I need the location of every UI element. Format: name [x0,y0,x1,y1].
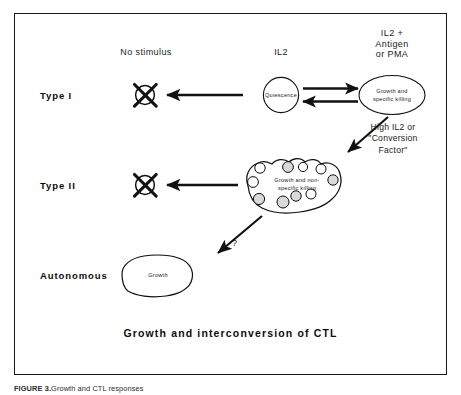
row-label-type-ii: Type II [40,180,76,191]
annotation-unknown-step: ? [232,238,237,249]
figure-caption-label: FIGURE 3. [14,384,51,393]
row-label-type-i: Type I [40,90,72,101]
shape-label-growth-nonspecific-killing: Growth and non-specific killing [262,177,332,192]
column-header-il2: IL2 [251,47,311,58]
row-label-autonomous: Autonomous [40,270,108,281]
figure-title: Growth and interconversion of CTL [14,327,447,339]
figure-page: No stimulus IL2 IL2 +Antigenor PMA Type … [0,0,461,395]
figure-caption: FIGURE 3.Growth and CTL responses [14,384,447,395]
column-header-no-stimulus: No stimulus [100,47,192,58]
column-header-il2-antigen-pma: IL2 +Antigenor PMA [352,28,432,60]
shape-label-autonomous-growth: Growth [132,272,184,280]
figure-caption-text: Growth and CTL responses [51,384,144,393]
shape-label-quiescence: Quiescence [254,92,308,100]
annotation-conversion-factor: High IL2 or"ConversionFactor" [349,122,437,156]
figure-frame [14,13,447,375]
shape-label-growth-specific-killing: Growth andspecific killing [362,88,422,103]
